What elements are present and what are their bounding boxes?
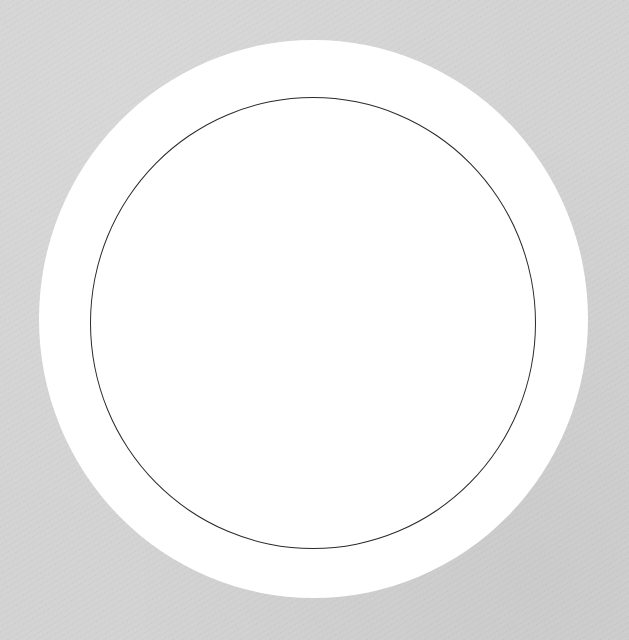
circle-outline <box>90 97 536 549</box>
